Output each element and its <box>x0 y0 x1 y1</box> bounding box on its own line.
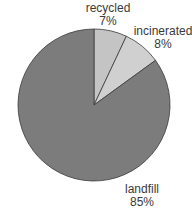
label-recycled: recycled 7% <box>78 2 138 28</box>
label-recycled-pct: 7% <box>78 15 138 28</box>
label-incinerated-pct: 8% <box>130 38 192 51</box>
label-incinerated: incinerated 8% <box>130 25 192 51</box>
label-landfill-pct: 85% <box>117 196 167 209</box>
label-landfill: landfill 85% <box>117 183 167 209</box>
